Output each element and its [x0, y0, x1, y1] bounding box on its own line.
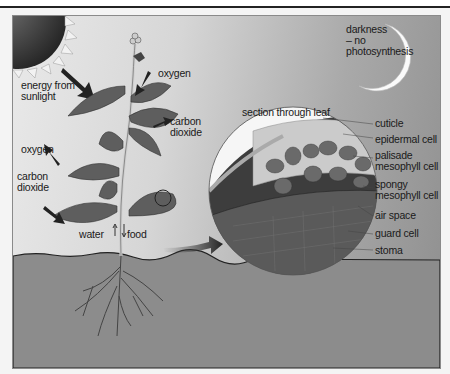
section-through-leaf-label: section through leaf — [242, 107, 330, 118]
air-space-label: air space — [375, 210, 416, 221]
food-label: food — [127, 229, 147, 240]
water-label: water — [79, 229, 104, 240]
oxygen-label-left: oxygen — [21, 144, 54, 155]
leaf-cross-section — [209, 107, 383, 276]
flower-icon — [130, 33, 141, 44]
plant-leaves — [53, 83, 178, 223]
carbon-dioxide-label-right: carbon dioxide — [170, 116, 202, 138]
sun-icon — [13, 16, 77, 78]
water-up-arrow-icon — [113, 224, 117, 236]
guard-cell-label: guard cell — [375, 228, 419, 239]
photosynthesis-diagram: energy from sunlight darkness – no photo… — [12, 15, 441, 369]
food-down-arrow-icon — [122, 224, 126, 237]
soil — [13, 250, 440, 368]
spongy-mesophyll-cell-label: spongy mesophyll cell — [375, 179, 438, 201]
epidermal-cell-label: epidermal cell — [375, 134, 437, 145]
carbon-dioxide-label-left: carbon dioxide — [17, 171, 49, 193]
zoom-arrow-icon — [163, 236, 223, 254]
darkness-label: darkness – no photosynthesis — [346, 24, 413, 57]
cuticle-label: cuticle — [375, 118, 403, 129]
palisade-mesophyll-cell-label: palisade mesophyll cell — [375, 150, 438, 172]
oxygen-label-top: oxygen — [158, 68, 191, 79]
page-header-rule — [0, 0, 450, 8]
stoma-label: stoma — [375, 245, 403, 256]
energy-from-sunlight-label: energy from sunlight — [21, 80, 75, 102]
